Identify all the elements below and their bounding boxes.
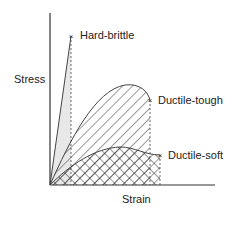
hard-brittle-label: Hard-brittle (80, 30, 134, 41)
ductile-soft-end-marker: × (158, 151, 163, 160)
x-axis-label: Strain (122, 194, 151, 205)
ductile-soft-label: Ductile-soft (168, 150, 223, 161)
ductile-tough-label: Ductile-tough (158, 95, 223, 106)
hard-brittle-end-marker: × (69, 32, 74, 41)
y-axis-label: Stress (14, 74, 45, 85)
ductile-tough-end-marker: × (148, 96, 153, 105)
